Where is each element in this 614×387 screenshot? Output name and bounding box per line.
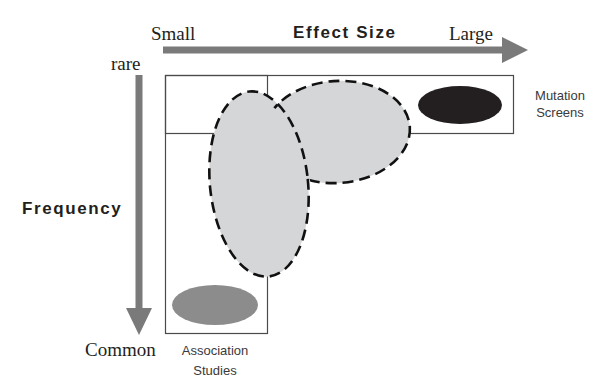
association-caption-line2: Studies bbox=[193, 363, 237, 378]
association-caption-line1: Association bbox=[182, 343, 248, 358]
mutation-caption-line1: Mutation bbox=[535, 88, 585, 103]
frequency-arrow bbox=[126, 75, 152, 335]
mutation-screens-blob bbox=[418, 86, 502, 124]
x-axis-start-label: Small bbox=[151, 23, 195, 44]
association-studies-caption: Association Studies bbox=[182, 343, 248, 378]
x-axis-title: Effect Size bbox=[293, 23, 397, 42]
x-axis-end-label: Large bbox=[449, 23, 493, 44]
y-axis-title: Frequency bbox=[22, 199, 122, 218]
mutation-screens-caption: Mutation Screens bbox=[535, 88, 585, 120]
y-axis-end-label: Common bbox=[85, 339, 156, 360]
gap-region bbox=[201, 76, 414, 282]
association-studies-blob bbox=[172, 285, 258, 325]
mutation-caption-line2: Screens bbox=[536, 105, 584, 120]
effect-size-frequency-diagram: Small Effect Size Large rare Frequency C… bbox=[0, 0, 614, 387]
y-axis-start-label: rare bbox=[111, 53, 141, 74]
